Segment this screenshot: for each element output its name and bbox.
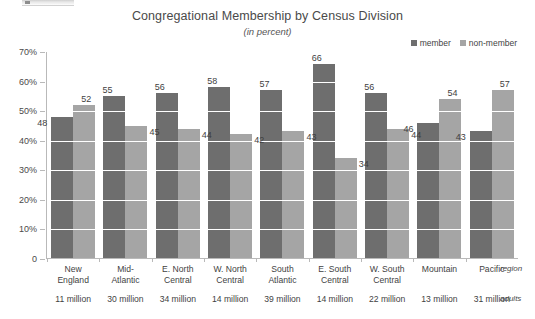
category-name-line: England: [47, 275, 99, 286]
bar-group: 5644: [361, 52, 413, 258]
gridline: [47, 229, 518, 230]
y-axis-tick-label: 0: [32, 254, 37, 264]
bar-pair: [309, 52, 361, 258]
y-axis-tick: [40, 111, 45, 112]
y-axis-tick: [40, 141, 45, 142]
chart-page: Congregational Membership by Census Divi…: [0, 0, 535, 319]
x-axis-tick: [466, 258, 467, 262]
bar-member[interactable]: [470, 131, 492, 258]
category-name-line: New: [47, 264, 99, 275]
y-axis-tick: [40, 52, 45, 53]
bar-value-label-member: 46: [403, 124, 413, 134]
bar-member[interactable]: [365, 93, 387, 258]
bar-non-member[interactable]: [73, 105, 95, 258]
gridline: [47, 111, 518, 112]
bar-group: 4654: [413, 52, 465, 258]
bar-value-label-member: 56: [155, 82, 165, 92]
chart-legend: membernon-member: [411, 38, 517, 48]
axis-name-adults: adults: [500, 294, 534, 305]
category-name-line: W. South: [361, 264, 413, 275]
legend-item-non-member: non-member: [460, 38, 517, 48]
bar-non-member[interactable]: [439, 99, 461, 258]
category-name-line: E. South: [309, 264, 361, 275]
bar-non-member[interactable]: [125, 126, 147, 258]
category-adults-value: 34 million: [152, 294, 204, 305]
bar-pair: [413, 52, 465, 258]
chart-title: Congregational Membership by Census Divi…: [0, 9, 535, 23]
bar-non-member[interactable]: [335, 158, 357, 258]
gridline: [47, 200, 518, 201]
bar-group: 5644: [152, 52, 204, 258]
category-name-line: Central: [152, 275, 204, 286]
bar-value-label-member: 48: [37, 118, 47, 128]
category-name-line: Central: [361, 275, 413, 286]
bar-member[interactable]: [208, 87, 230, 258]
bar-member[interactable]: [417, 123, 439, 258]
x-axis-category: SouthAtlantic39 million: [256, 264, 308, 319]
chart-subtitle: (in percent): [0, 26, 535, 37]
bar-non-member[interactable]: [230, 134, 252, 258]
category-adults-value: 11 million: [47, 294, 99, 305]
bar-groups: 485255455644584257436634564446544357: [47, 52, 518, 258]
bar-pair: [47, 52, 99, 258]
category-name-line: Mountain: [413, 264, 465, 275]
toolbar-nub-icon: [25, 1, 30, 4]
category-name-line: E. North: [152, 264, 204, 275]
category-name-line: Mid-: [99, 264, 151, 275]
bar-value-label-member: 58: [207, 76, 217, 86]
y-axis-tick-label: 70%: [19, 47, 37, 57]
x-axis-line: [46, 258, 518, 259]
bar-non-member[interactable]: [387, 129, 409, 258]
bar-group: 6634: [309, 52, 361, 258]
x-axis-tick: [256, 258, 257, 262]
y-axis-tick: [40, 229, 45, 230]
x-axis-tick: [413, 258, 414, 262]
bar-member[interactable]: [51, 117, 73, 258]
x-axis-tick: [204, 258, 205, 262]
bar-value-label-member: 55: [102, 85, 112, 95]
y-axis-tick: [40, 200, 45, 201]
bar-member[interactable]: [260, 90, 282, 258]
bar-value-label-non-member: 43: [306, 132, 316, 142]
y-axis-tick: [40, 82, 45, 83]
x-axis-labels: NewEngland11 millionMid-Atlantic30 milli…: [47, 264, 518, 319]
bar-non-member[interactable]: [492, 90, 514, 258]
x-axis-tick: [152, 258, 153, 262]
bar-value-label-non-member: 57: [500, 79, 510, 89]
bar-value-label-non-member: 44: [202, 130, 212, 140]
bar-non-member[interactable]: [178, 129, 200, 258]
bar-value-label-member: 57: [259, 79, 269, 89]
x-axis-tick: [47, 258, 48, 262]
bar-value-label-non-member: 54: [447, 88, 457, 98]
category-name-line: W. North: [204, 264, 256, 275]
category-name-line: Central: [204, 275, 256, 286]
y-axis-tick-label: 50%: [19, 106, 37, 116]
x-axis-category: E. NorthCentral34 million: [152, 264, 204, 319]
x-axis-category: Mountain13 million: [413, 264, 465, 319]
y-axis-tick: [40, 170, 45, 171]
x-axis-category: W. SouthCentral22 million: [361, 264, 413, 319]
category-adults-value: 22 million: [361, 294, 413, 305]
gridline: [47, 82, 518, 83]
bar-group: 4852: [47, 52, 99, 258]
bar-non-member[interactable]: [282, 131, 304, 258]
axis-name-region: region: [500, 264, 522, 273]
y-axis-tick: [40, 259, 45, 260]
bar-value-label-non-member: 52: [81, 94, 91, 104]
legend-label: member: [420, 38, 451, 48]
bar-value-label-member: 43: [456, 132, 466, 142]
bar-member[interactable]: [156, 93, 178, 258]
y-axis-tick-label: 40%: [19, 136, 37, 146]
bar-member[interactable]: [103, 96, 125, 258]
bar-value-label-member: 66: [312, 53, 322, 63]
category-name-line: Atlantic: [99, 275, 151, 286]
category-name-line: South: [256, 264, 308, 275]
bar-pair: [466, 52, 518, 258]
bar-pair: [99, 52, 151, 258]
legend-swatch-icon: [460, 40, 466, 46]
category-adults-value: 14 million: [204, 294, 256, 305]
bar-value-label-member: 56: [364, 82, 374, 92]
category-name-line: Central: [309, 275, 361, 286]
category-adults-value: 30 million: [99, 294, 151, 305]
legend-label: non-member: [469, 38, 517, 48]
